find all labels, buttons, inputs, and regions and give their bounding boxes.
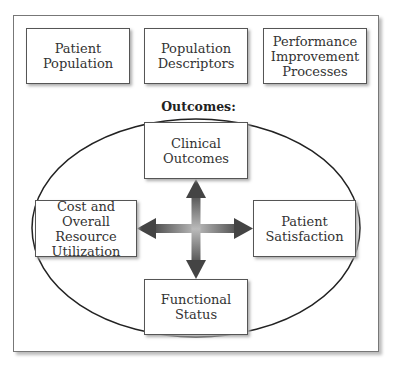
- population-descriptors-box: Population Descriptors: [144, 28, 248, 84]
- patient-satisfaction-label: Patient Satisfaction: [265, 214, 343, 244]
- patient-population-box: Patient Population: [26, 28, 130, 84]
- functional-status-box: Functional Status: [144, 279, 248, 335]
- performance-improvement-label: Performance Improvement Processes: [271, 34, 359, 79]
- patient-satisfaction-box: Patient Satisfaction: [253, 200, 356, 257]
- clinical-outcomes-box: Clinical Outcomes: [144, 122, 248, 179]
- functional-status-label: Functional Status: [161, 292, 232, 322]
- performance-improvement-box: Performance Improvement Processes: [263, 28, 367, 84]
- cost-utilization-box: Cost and Overall Resource Utilization: [35, 200, 137, 257]
- patient-population-label: Patient Population: [43, 41, 113, 71]
- outcomes-title: Outcomes:: [0, 99, 397, 114]
- clinical-outcomes-label: Clinical Outcomes: [163, 136, 229, 166]
- population-descriptors-label: Population Descriptors: [158, 41, 235, 71]
- cost-utilization-label: Cost and Overall Resource Utilization: [36, 199, 136, 259]
